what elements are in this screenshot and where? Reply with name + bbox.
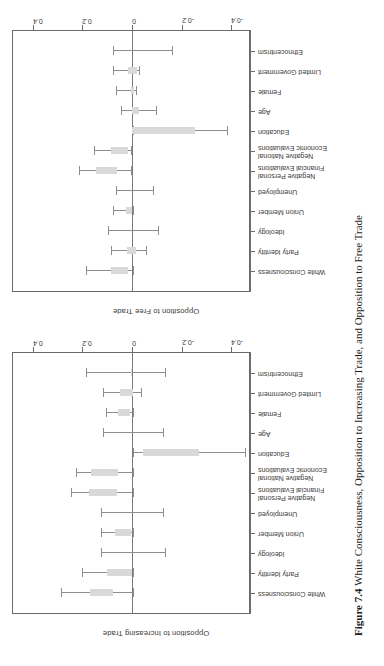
chart-panel-increasing-trade: Opposition to Increasing Trade -0.4-0.20…	[6, 326, 306, 644]
x-axis-tick	[250, 211, 255, 212]
estimate-box	[111, 268, 128, 275]
coefficient-marker	[13, 82, 249, 100]
y-axis-tick-label: -0.2	[182, 18, 194, 25]
ci-lower-cap	[133, 267, 134, 276]
ci-lower-cap	[133, 529, 134, 538]
y-axis-tick-label: 0.4	[33, 18, 43, 25]
estimate-box	[115, 530, 131, 537]
x-axis-tick	[250, 493, 255, 494]
estimate-box	[132, 108, 139, 115]
coefficient-marker	[13, 424, 249, 442]
coefficient-marker	[13, 62, 249, 80]
ci-upper-cap	[101, 509, 102, 518]
x-axis-category-label: Ethnocentrism	[258, 48, 378, 56]
ci-upper-cap	[86, 369, 87, 378]
coefficient-marker	[13, 162, 249, 180]
confidence-interval-line	[103, 433, 163, 434]
ci-upper-cap	[113, 47, 114, 56]
ci-lower-cap	[156, 107, 157, 116]
x-axis-tick	[250, 553, 255, 554]
ci-lower-cap	[133, 489, 134, 498]
x-axis-tick	[250, 131, 255, 132]
coefficient-marker	[13, 142, 249, 160]
coefficient-marker	[13, 262, 249, 280]
ci-lower-cap	[165, 549, 166, 558]
estimate-box	[143, 450, 199, 457]
y-axis-tick-label: 0.2	[82, 340, 92, 347]
ci-lower-cap	[136, 87, 137, 96]
y-axis-tick	[132, 25, 133, 31]
ci-upper-cap	[61, 589, 62, 598]
ci-lower-cap	[245, 449, 246, 458]
ci-upper-cap	[113, 67, 114, 76]
confidence-interval-line	[108, 231, 158, 232]
coefficient-marker	[13, 484, 249, 502]
ci-lower-cap	[172, 47, 173, 56]
estimate-box	[90, 590, 114, 597]
confidence-interval-line	[116, 191, 153, 192]
ci-lower-cap	[133, 409, 134, 418]
estimate-box	[118, 410, 129, 417]
x-axis-category-label: Female	[258, 88, 378, 96]
confidence-interval-line	[101, 513, 163, 514]
y-axis-tick	[182, 25, 183, 31]
ci-upper-cap	[108, 227, 109, 236]
coefficient-marker	[13, 464, 249, 482]
coefficient-marker	[13, 222, 249, 240]
x-axis-tick	[250, 533, 255, 534]
x-axis-left	[250, 352, 251, 614]
ci-lower-cap	[133, 207, 134, 216]
estimate-box	[96, 168, 117, 175]
ci-lower-cap	[131, 167, 132, 176]
ci-lower-cap	[141, 389, 142, 398]
coefficient-marker	[13, 504, 249, 522]
coefficient-marker	[13, 384, 249, 402]
x-axis-tick	[250, 473, 255, 474]
y-axis-tick	[231, 25, 232, 31]
x-axis-category-label: Unemployed	[258, 188, 378, 196]
ci-upper-cap	[116, 87, 117, 96]
y-axis-tick-label: -0.2	[182, 340, 194, 347]
x-axis-tick	[250, 91, 255, 92]
estimate-box	[132, 128, 195, 135]
confidence-interval-line	[101, 553, 165, 554]
x-axis-right	[250, 30, 251, 292]
coefficient-marker	[13, 364, 249, 382]
figure-page: Opposition to Increasing Trade -0.4-0.20…	[0, 0, 384, 666]
y-axis-tick-label: 0	[132, 340, 136, 347]
ci-lower-cap	[165, 369, 166, 378]
x-axis-tick	[250, 51, 255, 52]
estimate-box	[111, 148, 128, 155]
x-axis-category-label: Negative NationalEconomic Evaluations	[258, 144, 378, 161]
x-axis-tick	[250, 513, 255, 514]
y-axis-tick-label: 0.2	[82, 18, 92, 25]
coefficient-marker	[13, 564, 249, 582]
ci-lower-cap	[131, 147, 132, 156]
x-axis-category-label: Negative PersonalFinancial Evaluations	[258, 164, 378, 181]
ci-upper-cap	[86, 267, 87, 276]
coefficient-marker	[13, 444, 249, 462]
x-axis-tick	[250, 433, 255, 434]
ci-upper-cap	[101, 549, 102, 558]
ci-lower-cap	[227, 127, 228, 136]
y-axis-tick-label: -0.4	[231, 18, 243, 25]
ci-upper-cap	[133, 449, 134, 458]
ci-lower-cap	[133, 569, 134, 578]
x-axis-tick	[250, 71, 255, 72]
ci-upper-cap	[111, 247, 112, 256]
y-axis-tick	[231, 347, 232, 353]
x-axis-category-label: Limited Government	[258, 68, 378, 76]
y-axis-tick	[132, 347, 133, 353]
estimate-box	[127, 248, 136, 255]
coefficient-marker	[13, 404, 249, 422]
coefficient-marker	[13, 182, 249, 200]
ci-lower-cap	[158, 227, 159, 236]
x-axis-tick	[250, 191, 255, 192]
x-axis-tick	[250, 171, 255, 172]
ci-upper-cap	[79, 167, 80, 176]
y-axis-tick	[182, 347, 183, 353]
ci-upper-cap	[103, 389, 104, 398]
axis-title-left: Opposition to Increasing Trade	[103, 629, 209, 638]
y-axis-tick-label: -0.4	[231, 340, 243, 347]
x-axis-tick	[250, 393, 255, 394]
